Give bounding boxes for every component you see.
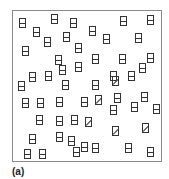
horizontal-divider-rectangle-icon xyxy=(70,18,77,28)
horizontal-divider-rectangle-icon xyxy=(139,63,146,73)
horizontal-divider-rectangle-icon xyxy=(92,143,99,153)
horizontal-divider-rectangle-icon xyxy=(125,143,132,153)
horizontal-divider-rectangle-icon xyxy=(120,16,127,26)
horizontal-divider-rectangle-icon xyxy=(92,80,99,90)
horizontal-divider-rectangle-icon xyxy=(29,134,36,144)
horizontal-divider-rectangle-icon xyxy=(22,46,29,56)
horizontal-divider-rectangle-icon xyxy=(131,102,138,112)
horizontal-divider-rectangle-icon xyxy=(56,132,63,142)
horizontal-divider-rectangle-icon xyxy=(81,97,88,107)
horizontal-divider-rectangle-icon xyxy=(56,97,63,107)
horizontal-divider-rectangle-icon xyxy=(75,62,82,72)
horizontal-divider-rectangle-icon xyxy=(36,115,43,125)
diagonal-divider-rectangle-icon xyxy=(85,117,92,127)
horizontal-divider-rectangle-icon xyxy=(22,98,29,108)
horizontal-divider-rectangle-icon xyxy=(103,34,110,44)
horizontal-divider-rectangle-icon xyxy=(75,43,82,53)
horizontal-divider-rectangle-icon xyxy=(55,55,62,65)
horizontal-divider-rectangle-icon xyxy=(110,105,117,115)
horizontal-divider-rectangle-icon xyxy=(19,18,26,28)
horizontal-divider-rectangle-icon xyxy=(68,136,75,146)
horizontal-divider-rectangle-icon xyxy=(39,149,46,159)
horizontal-divider-rectangle-icon xyxy=(89,26,96,36)
horizontal-divider-rectangle-icon xyxy=(141,92,148,102)
horizontal-divider-rectangle-icon xyxy=(147,15,154,25)
horizontal-divider-rectangle-icon xyxy=(18,81,25,91)
horizontal-divider-rectangle-icon xyxy=(73,147,80,157)
horizontal-divider-rectangle-icon xyxy=(62,80,69,90)
horizontal-divider-rectangle-icon xyxy=(71,115,78,125)
horizontal-divider-rectangle-icon xyxy=(63,32,70,42)
diagonal-divider-rectangle-icon xyxy=(112,76,119,86)
horizontal-divider-rectangle-icon xyxy=(128,71,135,81)
horizontal-divider-rectangle-icon xyxy=(135,33,142,43)
horizontal-divider-rectangle-icon xyxy=(147,147,154,157)
horizontal-divider-rectangle-icon xyxy=(92,54,99,64)
horizontal-divider-rectangle-icon xyxy=(37,98,44,108)
diagonal-divider-rectangle-icon xyxy=(112,126,119,136)
horizontal-divider-rectangle-icon xyxy=(29,72,36,82)
horizontal-divider-rectangle-icon xyxy=(44,37,51,47)
horizontal-divider-rectangle-icon xyxy=(114,93,121,103)
horizontal-divider-rectangle-icon xyxy=(59,65,66,75)
horizontal-divider-rectangle-icon xyxy=(33,27,40,37)
horizontal-divider-rectangle-icon xyxy=(56,116,63,126)
horizontal-divider-rectangle-icon xyxy=(81,142,88,152)
horizontal-divider-rectangle-icon xyxy=(119,54,126,64)
horizontal-divider-rectangle-icon xyxy=(45,71,52,81)
diagonal-divider-rectangle-icon xyxy=(95,95,102,105)
horizontal-divider-rectangle-icon xyxy=(24,149,31,159)
horizontal-divider-rectangle-icon xyxy=(153,104,160,114)
diagonal-divider-rectangle-icon xyxy=(142,123,149,133)
horizontal-divider-rectangle-icon xyxy=(147,53,154,63)
figure-label: (a) xyxy=(12,166,24,177)
horizontal-divider-rectangle-icon xyxy=(51,14,58,24)
